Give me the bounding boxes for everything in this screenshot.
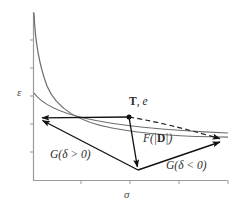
point-T-italic: e	[142, 95, 147, 107]
T-to-left-vector	[42, 117, 129, 118]
force-F-post: |)	[165, 132, 172, 144]
y-axis-label: ε	[17, 86, 21, 98]
diagram-svg	[0, 0, 244, 211]
T-to-bottom-vector	[129, 117, 137, 167]
figure-canvas: ε σ T, e F(|D|) G(δ > 0) G(δ < 0)	[0, 0, 244, 211]
T-point-marker	[127, 115, 132, 120]
bottom-to-left-vector	[43, 121, 139, 171]
point-T-bold: T	[129, 95, 137, 107]
g-positive-label: G(δ > 0)	[50, 148, 91, 160]
g-negative-label: G(δ < 0)	[166, 159, 207, 171]
force-F-pre: F(|	[143, 132, 157, 144]
point-T-label: T, e	[129, 95, 148, 107]
force-F-label: F(|D|)	[143, 132, 172, 144]
x-axis-label: σ	[124, 188, 129, 200]
